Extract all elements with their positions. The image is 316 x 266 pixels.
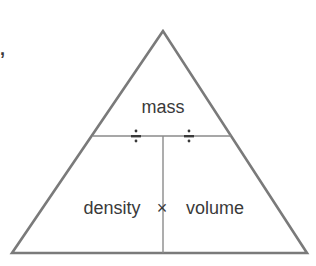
stray-comma-mark: , <box>0 39 5 59</box>
multiply-symbol: × <box>157 198 168 218</box>
label-volume: volume <box>186 198 244 218</box>
label-density: density <box>83 198 140 218</box>
divide-symbol-right <box>184 130 194 143</box>
label-mass: mass <box>141 97 184 117</box>
triangle-outline <box>12 31 307 253</box>
formula-triangle-diagram: mass density × volume , <box>0 0 316 266</box>
divide-symbol-left <box>131 130 141 143</box>
